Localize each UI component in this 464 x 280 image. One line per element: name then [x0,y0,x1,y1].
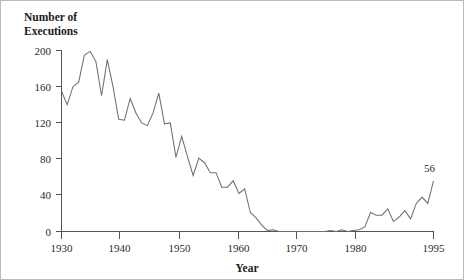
x-tick-labels: 1930 1940 1950 1960 1970 1980 1995 [51,242,446,254]
y-tick-labels: 200 160 120 80 40 0 [35,45,52,238]
x-tick-label-1950: 1950 [169,242,192,254]
line-chart: Number of Executions 200 160 120 80 40 0 [1,1,464,280]
x-tick-label-1940: 1940 [109,242,132,254]
x-tick-marks [62,232,434,239]
executions-line [62,51,434,231]
x-tick-label-1980: 1980 [345,242,368,254]
y-tick-label-0: 0 [46,226,52,238]
end-value-annotation: 56 [424,162,436,174]
y-tick-label-80: 80 [40,153,52,165]
y-tick-marks [56,51,62,232]
y-axis-title-line2: Executions [24,25,78,37]
x-tick-label-1995: 1995 [423,242,446,254]
x-tick-label-1930: 1930 [51,242,74,254]
x-axis-title: Year [236,262,259,274]
y-axis-title-line1: Number of [24,11,77,23]
x-tick-label-1970: 1970 [286,242,309,254]
y-tick-label-120: 120 [35,117,52,129]
y-tick-label-200: 200 [35,45,52,57]
chart-figure: Number of Executions 200 160 120 80 40 0 [0,0,464,280]
y-tick-label-40: 40 [40,189,52,201]
y-tick-label-160: 160 [35,81,52,93]
x-tick-label-1960: 1960 [228,242,251,254]
